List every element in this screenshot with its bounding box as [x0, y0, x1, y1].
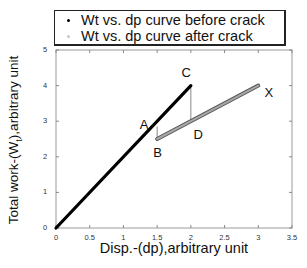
x-axis-label: Disp.-(dp),arbitrary unit [100, 240, 248, 256]
y-axis-label-main: Total work-(W [6, 142, 21, 225]
y-tick-label: 4 [43, 81, 47, 90]
annotation-x: X [264, 85, 273, 100]
y-tick-label: 3 [43, 116, 47, 125]
annotation-a: A [140, 117, 149, 132]
legend-label: Wt vs. dp curve after crack [81, 28, 253, 44]
legend-marker-icon [55, 19, 81, 22]
series-after-crack [157, 86, 258, 139]
x-tick-label: 3 [252, 233, 264, 242]
annotation-d: D [194, 127, 203, 142]
annotation-b: B [153, 145, 162, 160]
axes-frame [56, 50, 292, 228]
annotation-c: C [181, 65, 190, 80]
series-before-crack [56, 86, 191, 228]
y-tick-label: 0 [43, 223, 47, 232]
y-tick-label: 5 [43, 45, 47, 54]
x-tick-label: 3.5 [286, 233, 298, 242]
legend-marker-icon [55, 35, 81, 38]
legend: Wt vs. dp curve before crack Wt vs. dp c… [54, 10, 286, 46]
axis-ticks [56, 50, 292, 228]
dot-icon [67, 19, 70, 22]
axes-box [56, 50, 292, 228]
y-axis-label: Total work-(Wt),arbitrary unit [6, 56, 24, 224]
y-axis-label-tail: ),arbitrary unit [6, 56, 21, 139]
legend-item-after-crack: Wt vs. dp curve after crack [55, 28, 253, 44]
y-tick-label: 2 [43, 152, 47, 161]
dot-icon [67, 35, 70, 38]
legend-label: Wt vs. dp curve before crack [81, 12, 265, 28]
x-tick-label: 0 [50, 233, 62, 242]
x-tick-label: 0.5 [84, 233, 96, 242]
y-tick-label: 1 [43, 187, 47, 196]
y-axis-label-subscript: t [14, 139, 24, 142]
legend-item-before-crack: Wt vs. dp curve before crack [55, 12, 265, 28]
